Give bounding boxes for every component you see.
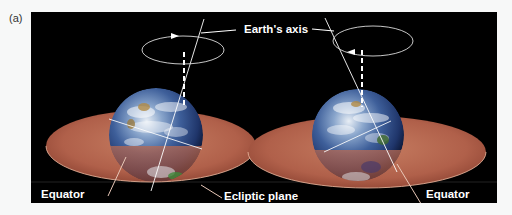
diagram-svg: [31, 12, 497, 203]
arrow-right-icon: [171, 33, 179, 39]
left-earth-system: [46, 19, 256, 198]
axis-leader-left: [201, 30, 236, 33]
ecliptic-leader: [201, 185, 222, 198]
equator-label-right: Equator: [426, 188, 469, 200]
precession-circle-left: [142, 36, 224, 64]
diagram-panel: Earth's axis Equator Ecliptic plane Equa…: [31, 12, 497, 203]
earth-axis-label: Earth's axis: [244, 23, 308, 35]
ecliptic-plane-label: Ecliptic plane: [224, 190, 298, 202]
precession-circle-right: [333, 26, 413, 56]
arrow-left-icon: [347, 49, 355, 55]
equator-label-left: Equator: [41, 188, 84, 200]
panel-label: (a): [9, 12, 22, 24]
right-earth-system: [248, 18, 486, 203]
